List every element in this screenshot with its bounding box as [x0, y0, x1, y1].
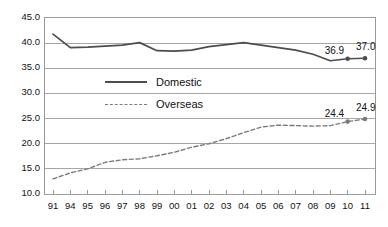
y-tick-label: 45.0 — [4, 12, 40, 22]
data-point-marker — [363, 56, 368, 61]
data-point-marker — [363, 117, 368, 122]
series-line-overseas — [53, 119, 365, 179]
y-tick-label: 10.0 — [4, 188, 40, 198]
y-tick-label: 25.0 — [4, 113, 40, 123]
x-axis-ticks — [53, 190, 365, 194]
y-tick-label: 40.0 — [4, 37, 40, 47]
legend-item-overseas: Overseas — [103, 93, 253, 115]
legend-line-dashed-icon — [103, 99, 149, 109]
chart-legend: Domestic Overseas — [103, 71, 253, 115]
y-tick-label: 15.0 — [4, 163, 40, 173]
y-tick-label: 30.0 — [4, 87, 40, 97]
legend-item-domestic: Domestic — [103, 71, 253, 93]
legend-line-solid-icon — [103, 77, 149, 87]
y-tick-label: 20.0 — [4, 138, 40, 148]
plot-area: Domestic Overseas 36.937.024.424.9 — [44, 17, 376, 195]
data-point-marker — [345, 119, 350, 124]
legend-label-domestic: Domestic — [156, 76, 202, 88]
y-axis: 45.040.035.030.025.020.015.010.0 — [0, 0, 40, 227]
y-tick-label: 35.0 — [4, 62, 40, 72]
data-point-label: 36.9 — [325, 45, 344, 56]
data-point-label: 24.4 — [325, 108, 344, 119]
data-point-label: 37.0 — [356, 41, 375, 52]
line-chart: 45.040.035.030.025.020.015.010.0 Domesti… — [0, 0, 388, 227]
x-tick-label: 11 — [355, 200, 375, 212]
data-point-marker — [345, 56, 350, 61]
data-point-label: 24.9 — [356, 102, 375, 113]
series-line-domestic — [53, 34, 365, 61]
legend-label-overseas: Overseas — [156, 98, 203, 110]
data-point-markers — [345, 56, 367, 124]
x-axis: 91949596979899000102030405060708091011 — [44, 200, 376, 218]
